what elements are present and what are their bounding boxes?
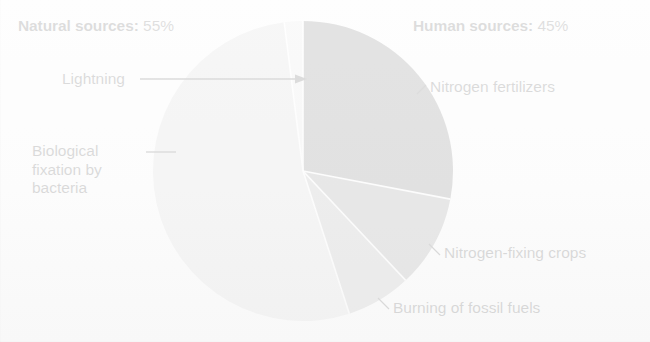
label-nitrogen-fertilizers: Nitrogen fertilizers — [430, 78, 555, 97]
natural-sources-heading: Natural sources: 55% — [18, 18, 174, 34]
pie-chart-figure: Natural sources: 55% Human sources: 45% — [0, 0, 650, 342]
label-burning-fossil-fuels: Burning of fossil fuels — [393, 299, 540, 318]
label-nitrogen-fixing-crops: Nitrogen-fixing crops — [444, 244, 586, 263]
human-sources-heading: Human sources: 45% — [413, 18, 568, 34]
human-sources-value: 45% — [537, 17, 568, 34]
human-sources-label: Human sources: — [413, 17, 533, 34]
natural-sources-label: Natural sources: — [18, 17, 139, 34]
pie-graphic — [152, 20, 454, 322]
natural-sources-value: 55% — [143, 17, 174, 34]
label-lightning: Lightning — [62, 70, 125, 89]
pie-slice — [303, 21, 453, 199]
label-biological-fixation: Biological fixation by bacteria — [32, 142, 147, 198]
pie-svg — [152, 20, 454, 322]
